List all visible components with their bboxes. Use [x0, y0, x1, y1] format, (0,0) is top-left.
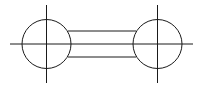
connector-diagram — [0, 0, 199, 87]
